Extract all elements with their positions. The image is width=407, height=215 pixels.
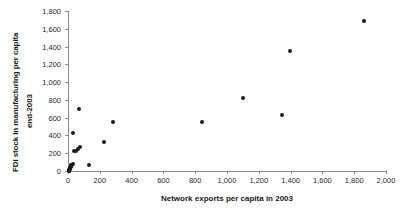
data-point [241,96,245,100]
y-tick-label: 0 [57,167,61,176]
x-tick [386,171,387,174]
x-tick [322,171,323,174]
y-tick: 400 [65,135,68,136]
plot-area: 02004006008001,0001,2001,4001,6001,800 0… [68,11,386,171]
y-axis-line [68,11,69,171]
y-axis-title: FDI stock in manufacturing per capita en… [0,0,34,180]
x-tick [354,171,355,174]
x-tick-label: 800 [189,176,202,185]
x-tick-label: 1,200 [249,176,268,185]
x-axis-title: Network exports per capita in 2003 [68,194,386,203]
data-point [77,107,81,111]
data-point [72,149,76,153]
x-tick [227,171,228,174]
y-tick-label: 1,600 [42,24,61,33]
y-tick: 200 [65,153,68,154]
x-tick-label: 600 [157,176,170,185]
x-tick [132,171,133,174]
y-tick: 1,200 [65,64,68,65]
x-tick [100,171,101,174]
x-tick [163,171,164,174]
y-tick-label: 800 [48,95,61,104]
x-tick [291,171,292,174]
y-tick: 1,600 [65,29,68,30]
x-tick-label: 2,000 [377,176,396,185]
data-point [111,120,115,124]
data-point [288,49,292,53]
y-axis-title-line-1: FDI stock in manufacturing per capita [11,33,20,172]
data-point [71,131,75,135]
data-point [200,120,204,124]
y-tick: 1,400 [65,47,68,48]
x-tick-label: 1,000 [218,176,237,185]
y-tick-label: 1,000 [42,78,61,87]
data-point [280,113,284,117]
data-point [87,163,91,167]
y-tick: 1,800 [65,11,68,12]
y-tick-label: 1,200 [42,60,61,69]
x-tick-label: 200 [94,176,107,185]
x-tick-label: 0 [66,176,70,185]
y-tick: 600 [65,118,68,119]
data-point [67,169,71,173]
x-tick [259,171,260,174]
scatter-chart-figure: FDI stock in manufacturing per capita en… [0,0,407,215]
x-tick [195,171,196,174]
data-point [362,19,366,23]
x-tick-label: 1,800 [345,176,364,185]
x-tick-label: 1,600 [313,176,332,185]
data-point [102,140,106,144]
y-tick-label: 1,800 [42,7,61,16]
y-tick-label: 600 [48,113,61,122]
y-tick: 1,000 [65,82,68,83]
y-tick-label: 400 [48,131,61,140]
y-tick-label: 200 [48,149,61,158]
x-tick-label: 1,400 [281,176,300,185]
y-tick-label: 1,400 [42,42,61,51]
x-tick-label: 400 [125,176,138,185]
y-tick: 800 [65,100,68,101]
y-axis-title-line-2: end-2003 [25,94,34,128]
